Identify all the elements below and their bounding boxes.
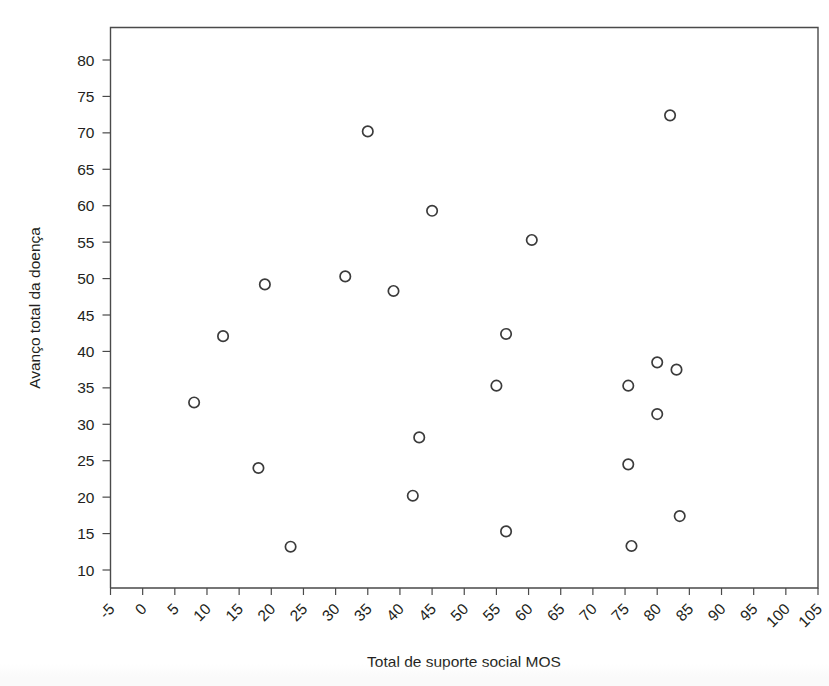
data-point-marker (363, 126, 373, 136)
data-point-marker (623, 459, 633, 469)
y-tick-label: 30 (77, 416, 95, 433)
x-tick-label: 75 (608, 600, 632, 624)
y-tick-label: 55 (77, 234, 94, 251)
data-point-marker (665, 110, 675, 120)
data-point-marker (501, 526, 511, 536)
data-point-marker (285, 541, 295, 551)
x-tick-label: 10 (190, 600, 214, 624)
x-tick-label: 0 (132, 600, 150, 618)
data-point-marker (253, 463, 263, 473)
x-tick-label: 90 (704, 600, 728, 624)
y-tick-label: 35 (77, 379, 94, 396)
data-point-marker (491, 380, 501, 390)
x-tick-label: 85 (672, 600, 696, 624)
data-point-marker (218, 331, 228, 341)
data-point-marker (260, 279, 270, 289)
y-tick-label: 75 (77, 88, 94, 105)
y-axis-title: Avanço total da doença (26, 227, 43, 389)
data-point-marker (340, 271, 350, 281)
x-tick-label: 25 (286, 600, 310, 624)
x-tick-label: 60 (511, 600, 535, 624)
y-tick-label: 20 (77, 489, 95, 506)
x-tick-label: 105 (795, 600, 825, 630)
plot-canvas: -505101520253035404550556065707580859095… (0, 0, 829, 686)
plot-frame (111, 28, 819, 589)
data-point-marker (527, 235, 537, 245)
y-tick-label: 60 (77, 197, 95, 214)
data-point-marker (414, 432, 424, 442)
data-point-marker (671, 364, 681, 374)
x-tick-label: 65 (544, 600, 568, 624)
x-axis-tick-labels: -505101520253035404550556065707580859095… (96, 600, 825, 631)
axes-frame (111, 28, 819, 589)
scatter-plot-figure: -505101520253035404550556065707580859095… (0, 0, 829, 686)
y-axis-tick-labels: 101520253035404550556065707580 (77, 52, 95, 579)
x-axis-title: Total de suporte social MOS (367, 653, 561, 670)
x-tick-label: 35 (351, 600, 375, 624)
data-point-marker (189, 397, 199, 407)
x-tick-label: -5 (96, 600, 118, 622)
x-tick-label: 15 (222, 600, 246, 624)
y-tick-label: 25 (77, 452, 94, 469)
data-point-marker (427, 206, 437, 216)
y-tick-label: 65 (77, 161, 94, 178)
y-tick-label: 15 (77, 525, 94, 542)
x-tick-label: 20 (254, 600, 278, 624)
y-tick-label: 50 (77, 270, 95, 287)
x-tick-label: 70 (576, 600, 600, 624)
data-point-marker (675, 511, 685, 521)
x-tick-label: 30 (319, 600, 343, 624)
x-tick-label: 80 (640, 600, 664, 624)
x-tick-label: 95 (737, 600, 761, 624)
data-point-marker (388, 286, 398, 296)
data-point-marker (652, 357, 662, 367)
y-axis-ticks (103, 60, 111, 570)
x-tick-label: 50 (447, 600, 471, 624)
data-point-marker (652, 409, 662, 419)
x-tick-label: 40 (383, 600, 407, 624)
y-tick-label: 70 (77, 124, 95, 141)
x-tick-label: 45 (415, 600, 439, 624)
x-axis-ticks (111, 588, 819, 595)
data-point-marker (626, 541, 636, 551)
x-tick-label: 5 (164, 600, 182, 618)
data-point-marker (501, 329, 511, 339)
data-point-marker (408, 490, 418, 500)
y-tick-label: 45 (77, 307, 94, 324)
x-tick-label: 100 (763, 600, 794, 631)
data-points (189, 110, 685, 552)
data-point-marker (623, 380, 633, 390)
y-tick-label: 80 (77, 52, 95, 69)
x-tick-label: 55 (479, 600, 503, 624)
y-tick-label: 10 (77, 562, 95, 579)
y-tick-label: 40 (77, 343, 95, 360)
